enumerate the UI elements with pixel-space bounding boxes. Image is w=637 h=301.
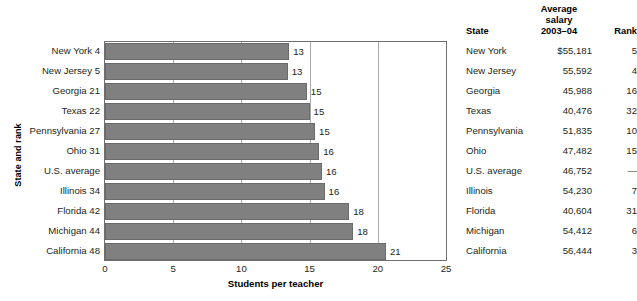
cell-rank: 5 <box>596 42 637 59</box>
bar-value-label: 16 <box>322 163 337 180</box>
bar <box>105 183 325 200</box>
bar-value-label: 21 <box>386 243 401 260</box>
bar-value-label: 18 <box>349 203 364 220</box>
category-label: California 48 <box>46 242 100 259</box>
x-tick-label: 0 <box>102 263 107 274</box>
column-header-salary-line1: Average <box>526 4 592 14</box>
x-tick-label: 15 <box>304 263 315 274</box>
x-axis-ticks: 0510152025 <box>104 263 447 277</box>
cell-rank: — <box>596 162 637 179</box>
cell-average-salary: 47,482 <box>526 142 592 159</box>
cell-state: Ohio <box>466 142 486 159</box>
column-header-rank: Rank <box>596 26 637 36</box>
bar-value-label: 13 <box>289 43 304 60</box>
bar-chart-figure: State and rank New York 4New Jersey 5Geo… <box>0 0 462 301</box>
cell-average-salary: 55,592 <box>526 62 592 79</box>
cell-state: New York <box>466 42 507 59</box>
bar-value-label: 18 <box>353 223 368 240</box>
bar <box>105 243 386 260</box>
cell-state: California <box>466 242 507 259</box>
salary-rank-table: State Average salary 2003–04 Rank New Yo… <box>466 0 637 301</box>
cell-rank: 16 <box>596 82 637 99</box>
category-label: Georgia 21 <box>53 82 100 99</box>
table-row: Texas40,47632 <box>466 102 637 119</box>
cell-state: Texas <box>466 102 491 119</box>
table-row: Georgia45,98816 <box>466 82 637 99</box>
table-row: California56,4443 <box>466 242 637 259</box>
bar <box>105 63 288 80</box>
cell-average-salary: 51,835 <box>526 122 592 139</box>
cell-state: Georgia <box>466 82 500 99</box>
category-label: Texas 22 <box>62 102 100 119</box>
cell-average-salary: 54,412 <box>526 222 592 239</box>
cell-rank: 7 <box>596 182 637 199</box>
bar <box>105 223 353 240</box>
bar-value-label: 16 <box>325 183 340 200</box>
category-label: Michigan 44 <box>48 222 100 239</box>
cell-average-salary: $55,181 <box>526 42 592 59</box>
y-axis-category-labels: New York 4New Jersey 5Georgia 21Texas 22… <box>6 41 100 261</box>
table-row: New York$55,1815 <box>466 42 637 59</box>
bar-value-label: 16 <box>319 143 334 160</box>
cell-average-salary: 46,752 <box>526 162 592 179</box>
bar <box>105 203 349 220</box>
table-row: Florida40,60431 <box>466 202 637 219</box>
table-row: New Jersey55,5924 <box>466 62 637 79</box>
cell-rank: 4 <box>596 62 637 79</box>
cell-rank: 10 <box>596 122 637 139</box>
bar-value-label: 13 <box>288 63 303 80</box>
plot-area: 1313151515161616181821 <box>104 41 447 261</box>
table-row: Illinois54,2307 <box>466 182 637 199</box>
cell-average-salary: 56,444 <box>526 242 592 259</box>
bar <box>105 83 307 100</box>
cell-rank: 6 <box>596 222 637 239</box>
cell-state: Pennsylvania <box>466 122 523 139</box>
cell-rank: 32 <box>596 102 637 119</box>
cell-average-salary: 54,230 <box>526 182 592 199</box>
category-label: New York 4 <box>51 42 100 59</box>
cell-state: Illinois <box>466 182 493 199</box>
bar-value-label: 15 <box>307 83 322 100</box>
x-tick-label: 25 <box>441 263 452 274</box>
category-label: Illinois 34 <box>60 182 100 199</box>
column-header-salary-line2: salary <box>526 15 592 25</box>
bar <box>105 103 310 120</box>
cell-average-salary: 45,988 <box>526 82 592 99</box>
cell-rank: 31 <box>596 202 637 219</box>
category-label: New Jersey 5 <box>42 62 100 79</box>
table-header-row: State Average salary 2003–04 Rank <box>466 0 637 41</box>
cell-state: U.S. average <box>466 162 522 179</box>
bar <box>105 163 322 180</box>
column-header-salary-year: 2003–04 <box>526 26 592 36</box>
cell-average-salary: 40,604 <box>526 202 592 219</box>
category-label: Florida 42 <box>57 202 100 219</box>
bar <box>105 123 315 140</box>
cell-rank: 3 <box>596 242 637 259</box>
x-tick-label: 10 <box>236 263 247 274</box>
bar <box>105 43 289 60</box>
cell-state: New Jersey <box>466 62 516 79</box>
cell-average-salary: 40,476 <box>526 102 592 119</box>
table-row: U.S. average46,752— <box>466 162 637 179</box>
cell-rank: 15 <box>596 142 637 159</box>
cell-state: Florida <box>466 202 495 219</box>
table-row: Pennsylvania51,83510 <box>466 122 637 139</box>
category-label: Pennsylvania 27 <box>30 122 100 139</box>
column-header-state: State <box>466 26 489 36</box>
table-row: Michigan54,4126 <box>466 222 637 239</box>
x-axis-title: Students per teacher <box>104 278 447 289</box>
bar-value-label: 15 <box>315 123 330 140</box>
table-row: Ohio47,48215 <box>466 142 637 159</box>
x-tick-label: 20 <box>372 263 383 274</box>
category-label: Ohio 31 <box>66 142 100 159</box>
cell-state: Michigan <box>466 222 504 239</box>
gridline <box>378 42 379 260</box>
bar <box>105 143 319 160</box>
x-tick-label: 5 <box>171 263 176 274</box>
bar-value-label: 15 <box>310 103 325 120</box>
category-label: U.S. average <box>44 162 100 179</box>
